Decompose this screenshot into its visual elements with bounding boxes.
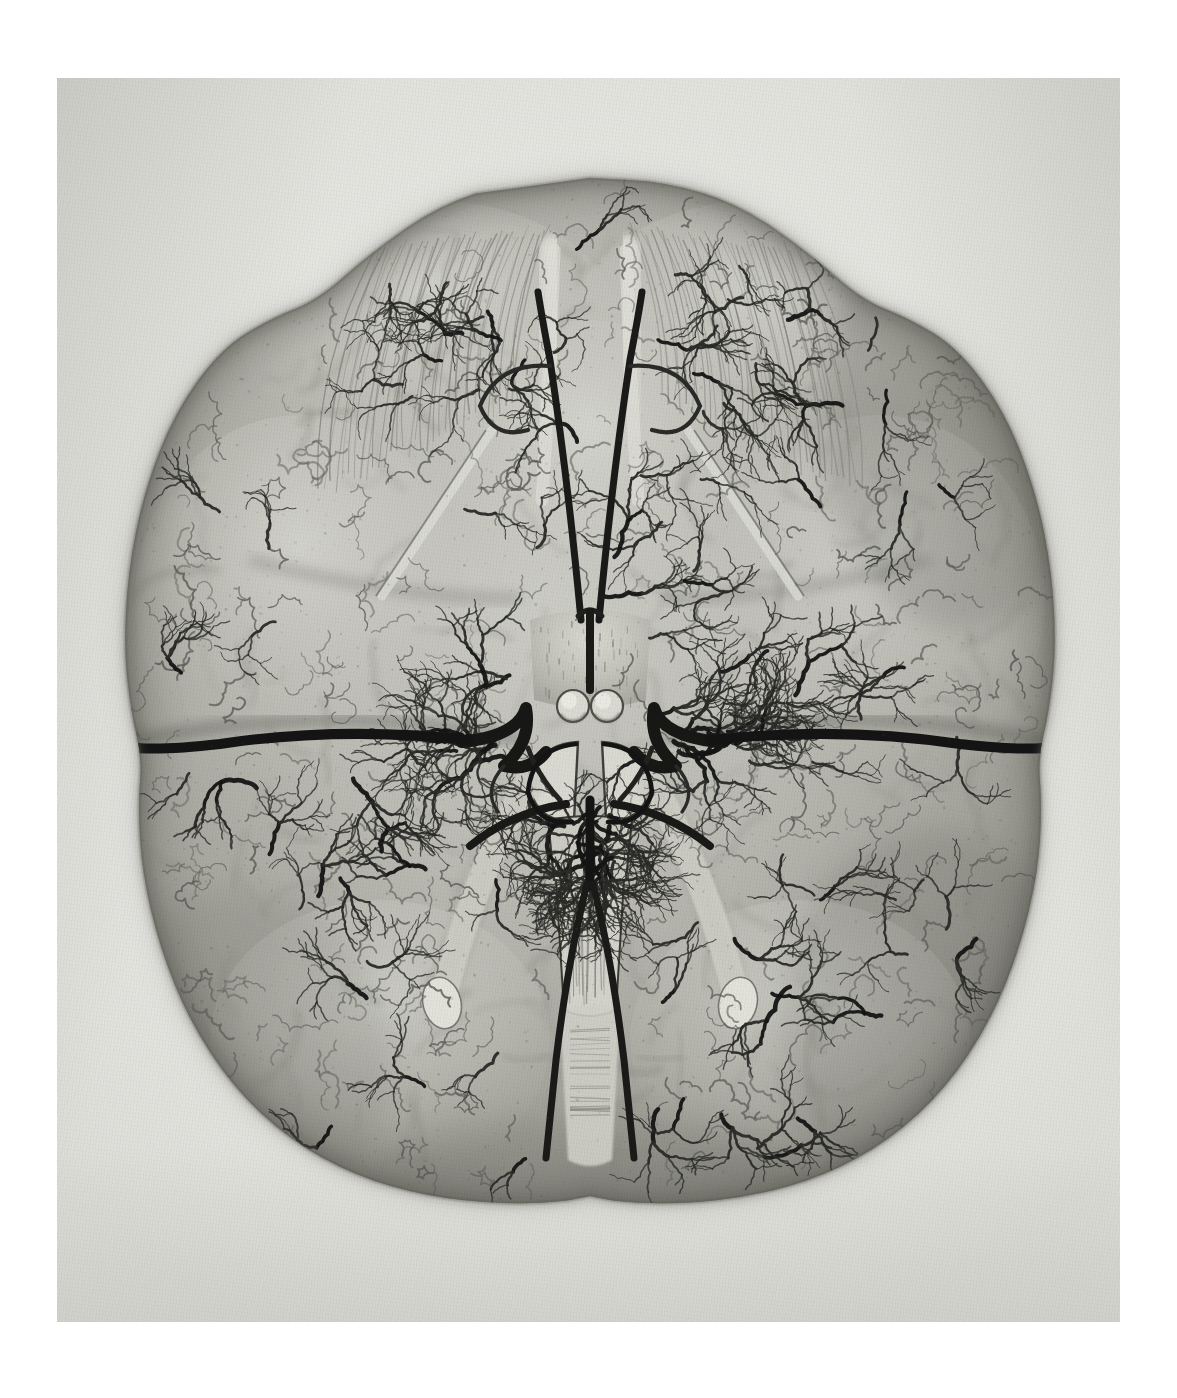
brain-engraving-illustration bbox=[57, 78, 1120, 1322]
engraving-plate bbox=[57, 78, 1120, 1322]
page-root bbox=[0, 0, 1177, 1398]
